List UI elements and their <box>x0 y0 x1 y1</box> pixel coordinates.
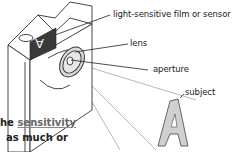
body-line-2: as much or <box>6 132 68 143</box>
body-text-prefix: he <box>0 117 17 128</box>
subject-letter <box>158 99 188 146</box>
label-aperture: aperture <box>153 64 189 74</box>
body-line-1: he sensitivity <box>0 117 76 128</box>
label-sensor: light-sensitive film or sensor <box>113 9 231 19</box>
sensitivity-link[interactable]: sensitivity <box>17 117 76 128</box>
camera-diagram: A <box>0 0 244 152</box>
camera-body <box>8 2 92 152</box>
label-subject: subject <box>185 87 215 97</box>
aperture-hole <box>67 57 73 65</box>
inverted-image: A <box>35 36 44 51</box>
label-lens: lens <box>130 38 147 48</box>
